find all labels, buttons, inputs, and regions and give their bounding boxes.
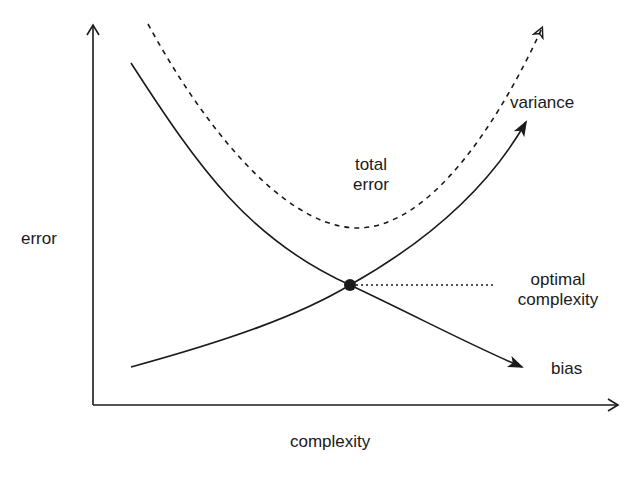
bias-curve [131,63,522,367]
total-error-label: total error [336,155,406,195]
total-error-label-line2: error [336,175,406,195]
total-error-curve [148,24,542,228]
optimal-point [344,279,356,291]
optimal-complexity-label: optimal complexity [498,270,618,310]
optimal-label-line2: complexity [498,290,618,310]
bias-variance-diagram [0,0,638,479]
variance-label: variance [510,93,574,113]
y-axis-label: error [21,229,57,249]
total-error-label-line1: total [336,155,406,175]
optimal-label-line1: optimal [498,270,618,290]
x-axis-label: complexity [290,432,370,452]
bias-label: bias [551,359,582,379]
variance-curve [131,122,526,367]
